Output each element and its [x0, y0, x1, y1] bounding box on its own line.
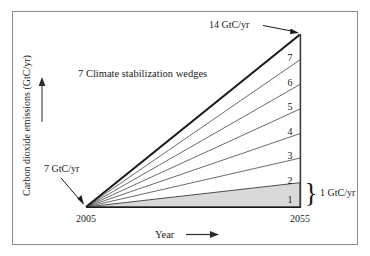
wedge-label-6: 6: [288, 77, 293, 88]
xtick-2055: 2055: [290, 213, 310, 224]
x-axis-label: Year: [155, 229, 175, 240]
wedge-label-5: 5: [288, 101, 293, 112]
wedge-label-1: 1: [288, 194, 293, 205]
wedge-size-brace: }: [305, 178, 318, 208]
figure-panel: 7 6 5 4 3 2 1 7 Climate stabilization we…: [0, 0, 370, 256]
wedge-size-label: 1 GtC/yr: [320, 187, 356, 198]
start-value-label: 7 GtC/yr: [44, 163, 80, 174]
wedge-label-3: 3: [288, 150, 293, 161]
end-value-label: 14 GtC/yr: [209, 19, 250, 30]
wedge-label-4: 4: [288, 126, 293, 137]
wedge-label-7: 7: [288, 52, 293, 63]
wedge-label-2: 2: [288, 175, 293, 186]
wedges-title-annotation: 7 Climate stabilization wedges: [78, 68, 207, 79]
xtick-2005: 2005: [76, 213, 96, 224]
y-axis-label: Carbon dioxide emissions (GtC/yr): [21, 55, 33, 196]
